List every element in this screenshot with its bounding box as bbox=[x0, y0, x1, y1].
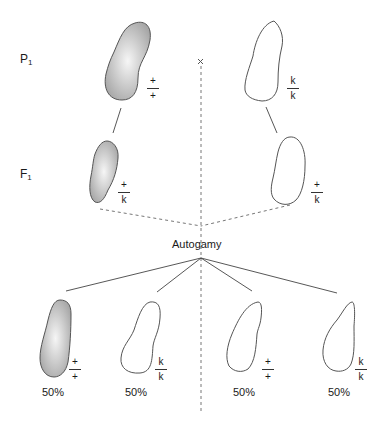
allele-bottom: + bbox=[150, 90, 156, 101]
offspring-4-genotype: k k bbox=[355, 357, 367, 382]
offspring-4-cell bbox=[323, 302, 355, 371]
allele-bottom: k bbox=[359, 371, 364, 382]
allele-top: + bbox=[72, 356, 78, 367]
f1-left-dashed bbox=[100, 209, 201, 226]
autogamy-label: Autogamy bbox=[172, 238, 222, 250]
fan-line-1 bbox=[66, 258, 201, 291]
fraction-bar bbox=[69, 369, 81, 370]
generation-label-subscript: 1 bbox=[28, 58, 32, 67]
fan-line-4 bbox=[201, 258, 337, 293]
offspring-1-percent: 50% bbox=[42, 386, 64, 398]
generation-label-f1: F1 bbox=[20, 167, 32, 182]
offspring-4-percent: 50% bbox=[328, 386, 350, 398]
offspring-2-percent: 50% bbox=[125, 386, 147, 398]
allele-bottom: k bbox=[291, 90, 296, 101]
fraction-bar bbox=[118, 192, 130, 193]
allele-bottom: + bbox=[265, 371, 271, 382]
fraction-bar bbox=[262, 369, 274, 370]
generation-label-subscript: 1 bbox=[27, 173, 31, 182]
cross-icon bbox=[198, 59, 203, 64]
f1-right-dashed bbox=[201, 205, 290, 226]
f1-right-cell bbox=[271, 137, 305, 204]
offspring-3-percent: 50% bbox=[233, 386, 255, 398]
p1-left-cell bbox=[105, 22, 150, 100]
p1-f1-right-connector bbox=[266, 107, 277, 133]
allele-top: k bbox=[359, 356, 364, 367]
allele-top: + bbox=[314, 179, 320, 190]
allele-top: k bbox=[159, 356, 164, 367]
allele-bottom: k bbox=[315, 194, 320, 205]
offspring-1-genotype: + + bbox=[69, 357, 81, 382]
fraction-bar bbox=[155, 369, 167, 370]
diagram-canvas: P1 F1 + + k k + k + k Autogamy + + k k + bbox=[0, 0, 386, 424]
allele-top: + bbox=[121, 179, 127, 190]
fan-line-3 bbox=[201, 258, 252, 291]
fraction-bar bbox=[147, 88, 159, 89]
f1-right-genotype: + k bbox=[311, 180, 323, 205]
fraction-bar bbox=[287, 88, 299, 89]
allele-bottom: k bbox=[159, 371, 164, 382]
allele-top: + bbox=[150, 75, 156, 86]
fraction-bar bbox=[311, 192, 323, 193]
offspring-2-genotype: k k bbox=[155, 357, 167, 382]
p1-f1-left-connector bbox=[113, 108, 121, 133]
offspring-3-cell bbox=[227, 302, 262, 371]
f1-left-genotype: + k bbox=[118, 180, 130, 205]
allele-bottom: k bbox=[122, 194, 127, 205]
f1-left-cell bbox=[90, 141, 118, 203]
p1-right-cell bbox=[245, 21, 283, 101]
p1-left-genotype: + + bbox=[147, 76, 159, 101]
generation-label-text: P bbox=[20, 52, 28, 66]
generation-label-p1: P1 bbox=[20, 52, 32, 67]
allele-top: k bbox=[291, 75, 296, 86]
allele-bottom: + bbox=[72, 371, 78, 382]
diagram-graphics bbox=[0, 0, 386, 424]
offspring-3-genotype: + + bbox=[262, 357, 274, 382]
offspring-1-cell bbox=[40, 300, 71, 377]
p1-right-genotype: k k bbox=[287, 76, 299, 101]
fraction-bar bbox=[355, 369, 367, 370]
allele-top: + bbox=[265, 356, 271, 367]
